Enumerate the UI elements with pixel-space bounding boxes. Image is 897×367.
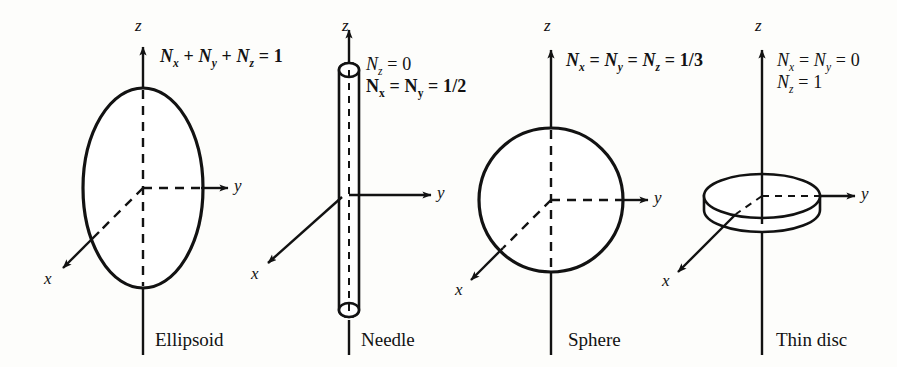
disc-x-axis-label: x: [662, 272, 670, 289]
ellipsoid-y-axis-label: y: [234, 177, 242, 194]
demagnetizing-factors-figure: z y x Nx + Ny + Nz = 1 Ellipsoid z y x N…: [0, 0, 897, 367]
needle-formula-line-1: Nz = 0: [366, 55, 411, 77]
panel-sphere-graphics: [471, 50, 648, 355]
sphere-y-axis-label: y: [654, 189, 662, 206]
needle-formula-line-2: Nx = Ny = 1/2: [366, 77, 466, 99]
disc-formula-line-2: Nz = 1: [777, 73, 822, 95]
needle-z-axis-label: z: [342, 17, 349, 34]
disc-caption: Thin disc: [776, 330, 847, 349]
ellipsoid-formula-line-1: Nx + Ny + Nz = 1: [160, 47, 283, 69]
disc-formula-line-1: Nx = Ny = 0: [777, 51, 860, 73]
sphere-x-axis-label: x: [455, 281, 463, 298]
figure-vector-canvas: [0, 0, 897, 367]
sphere-formula-line-1: Nx = Ny = Nz = 1/3: [566, 51, 703, 73]
ellipsoid-x-axis: [63, 232, 99, 268]
ellipsoid-x-axis-label: x: [44, 270, 52, 287]
disc-z-axis-label: z: [755, 17, 762, 34]
sphere-z-axis-label: z: [544, 17, 551, 34]
sphere-caption: Sphere: [568, 330, 621, 349]
ellipsoid-caption: Ellipsoid: [155, 330, 224, 349]
disc-x-axis: [678, 214, 736, 272]
needle-x-axis-label: x: [251, 265, 259, 282]
ellipsoid-z-axis-label: z: [135, 17, 142, 34]
disc-y-axis-label: y: [861, 185, 869, 202]
needle-x-axis: [268, 197, 342, 263]
panel-disc-graphics: [678, 50, 855, 355]
needle-y-axis-label: y: [437, 184, 445, 201]
needle-caption: Needle: [361, 330, 415, 349]
sphere-x-axis: [471, 248, 503, 280]
panel-ellipsoid-graphics: [63, 47, 228, 355]
